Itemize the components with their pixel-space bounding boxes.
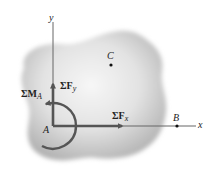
point-c-label: C	[107, 51, 114, 61]
rigid-body	[21, 31, 166, 161]
point-b-label: B	[173, 113, 179, 123]
sum-fy-label: ΣFy	[60, 81, 76, 93]
x-axis-label: x	[198, 120, 202, 130]
y-axis-label: y	[49, 13, 53, 23]
point-b-dot	[175, 124, 178, 127]
point-a-label: A	[43, 125, 49, 135]
point-c-dot	[109, 63, 112, 66]
sum-fx-label: ΣFx	[112, 111, 128, 123]
sum-ma-label: ΣMA	[21, 89, 42, 101]
